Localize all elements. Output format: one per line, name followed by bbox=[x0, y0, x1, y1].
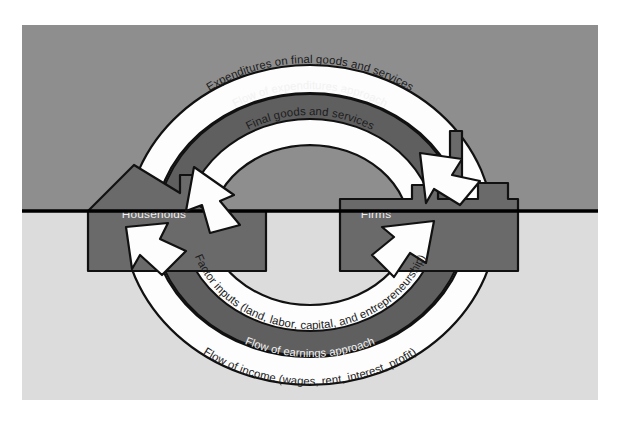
diagram-frame: Households Firms bbox=[22, 25, 598, 400]
circular-flow-diagram: Households Firms bbox=[22, 25, 598, 400]
figure-page: Households Firms bbox=[0, 0, 630, 424]
node-firms-label: Firms bbox=[361, 207, 391, 221]
node-households-label: Households bbox=[122, 207, 186, 221]
